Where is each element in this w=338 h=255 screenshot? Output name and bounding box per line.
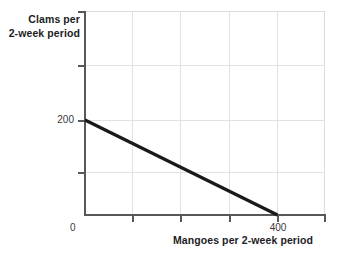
chart-figure: 200 0 400 Clams per 2-week period Mangoe…: [0, 0, 338, 255]
y-axis-title: Clams per 2-week period: [2, 12, 80, 40]
y-axis-title-line-1: Clams per: [2, 12, 80, 26]
x-axis-tick-label-0: 0: [70, 222, 76, 233]
x-axis-tick-label-400: 400: [267, 222, 289, 233]
y-axis-tick-label-200: 200: [57, 114, 74, 125]
ppf-line: [85, 120, 278, 215]
y-axis-title-line-2: 2-week period: [2, 26, 80, 40]
x-axis-title: Mangoes per 2-week period: [150, 234, 336, 246]
